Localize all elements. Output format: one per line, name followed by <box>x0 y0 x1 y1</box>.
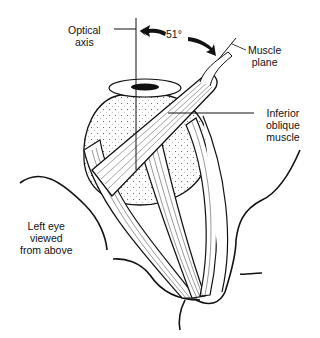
optical-axis-label-line1: Optical <box>68 24 101 36</box>
caption-line2: viewed <box>20 232 73 244</box>
pupil <box>131 84 159 91</box>
muscle-plane-label-line2: plane <box>248 56 281 68</box>
optical-axis-label: Optical axis <box>68 24 101 48</box>
inferior-oblique-label-line3: muscle <box>266 131 300 143</box>
caption-line3: from above <box>20 244 73 256</box>
inferior-oblique-label-line1: Inferior <box>266 107 300 119</box>
caption-line1: Left eye <box>20 220 73 232</box>
caption-label: Left eye viewed from above <box>20 220 73 256</box>
muscle-plane-label-line1: Muscle <box>248 44 281 56</box>
muscle-plane-leader <box>232 44 246 50</box>
optical-axis-label-line2: axis <box>68 36 101 48</box>
angle-label: 51° <box>166 28 182 40</box>
inferior-oblique-label-line2: oblique <box>266 119 300 131</box>
muscle-plane-label: Muscle plane <box>248 44 281 68</box>
inferior-oblique-label: Inferior oblique muscle <box>266 107 300 143</box>
